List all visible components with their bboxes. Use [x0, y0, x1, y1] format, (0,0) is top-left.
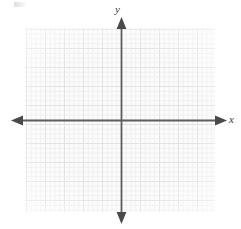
y-axis-down-arrowhead [117, 212, 127, 224]
x-axis-right-arrowhead [215, 116, 227, 126]
y-axis-label: y [115, 4, 120, 15]
axes-layer [0, 0, 241, 229]
y-axis-up-arrowhead [117, 17, 127, 29]
x-axis-label: x [229, 114, 234, 125]
coordinate-plane-figure: x y [0, 0, 241, 229]
x-axis-left-arrowhead [11, 116, 23, 126]
